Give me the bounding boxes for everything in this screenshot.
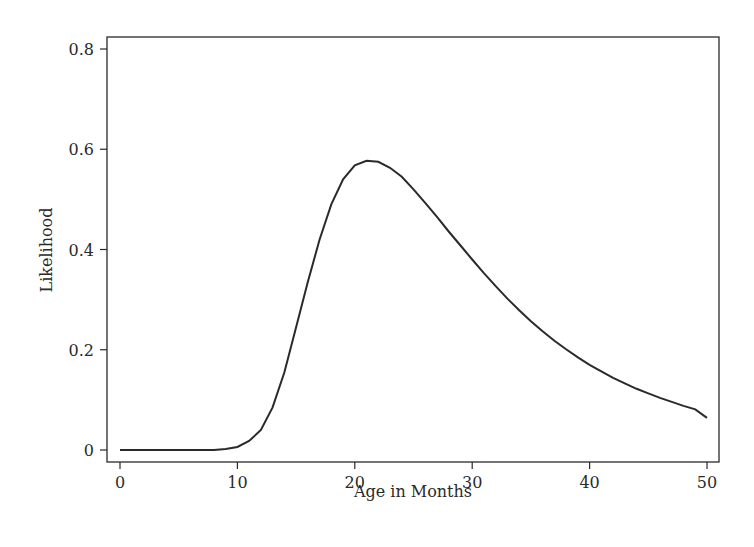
x-tick-label: 10 [227, 473, 247, 492]
y-tick-label: 0.6 [69, 140, 94, 159]
x-tick-label: 50 [697, 473, 717, 492]
likelihood-chart: 00.20.40.60.8 01020304050 Age in Months … [0, 0, 754, 547]
y-axis-ticks: 00.20.40.60.8 [69, 40, 107, 460]
y-tick-label: 0.8 [69, 40, 94, 59]
likelihood-curve [120, 161, 707, 450]
y-tick-label: 0.4 [69, 241, 94, 260]
y-tick-label: 0.2 [69, 341, 94, 360]
y-axis-label: Likelihood [37, 208, 56, 293]
x-tick-label: 0 [115, 473, 125, 492]
x-tick-label: 40 [579, 473, 599, 492]
y-tick-label: 0 [84, 441, 94, 460]
plot-frame [107, 37, 719, 462]
x-axis-label: Age in Months [353, 482, 472, 501]
